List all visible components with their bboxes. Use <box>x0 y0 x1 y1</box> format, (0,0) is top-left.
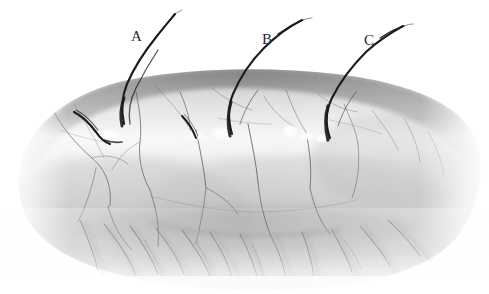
illustration-figure: A B C <box>0 0 489 294</box>
callout-label-a: A <box>131 29 142 44</box>
illustration-canvas <box>0 0 489 294</box>
skin-surface <box>0 50 489 294</box>
callout-label-c: C <box>364 33 375 48</box>
callout-label-b: B <box>262 32 273 47</box>
highlight-c2 <box>300 131 314 141</box>
highlight-left <box>100 129 120 139</box>
highlight-c1 <box>281 124 299 138</box>
